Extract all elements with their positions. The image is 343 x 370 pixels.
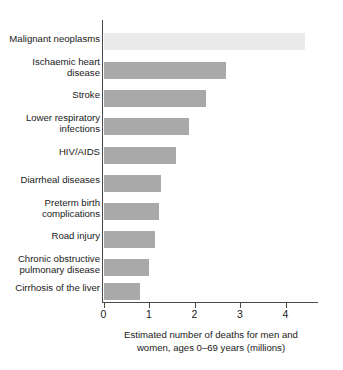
bar — [104, 90, 207, 107]
bar — [104, 33, 305, 50]
bar-category-label: Diarrheal diseases — [0, 174, 100, 185]
bar-category-label: Chronic obstructive pulmonary disease — [0, 253, 100, 276]
x-axis-caption: Estimated number of deaths for men and w… — [103, 329, 319, 354]
x-axis-caption-line1: Estimated number of deaths for men and — [103, 329, 319, 342]
bar — [104, 231, 156, 248]
x-axis-tick-label: 1 — [137, 308, 161, 321]
plot-area: Malignant neoplasmsIschaemic heart disea… — [0, 0, 343, 370]
bar-category-label: Road injury — [0, 230, 100, 241]
bar — [104, 203, 159, 220]
x-axis-tick-label: 0 — [92, 308, 116, 321]
bar-chart: Malignant neoplasmsIschaemic heart disea… — [0, 0, 343, 370]
x-axis-tick-label: 4 — [274, 308, 298, 321]
bar-category-label: Lower respiratory infections — [0, 112, 100, 135]
bar — [104, 259, 149, 276]
bar-category-label: HIV/AIDS — [0, 146, 100, 157]
x-axis-tick-label: 2 — [183, 308, 207, 321]
bar-category-label: Cirrhosis of the liver — [0, 282, 100, 293]
bar-category-label: Ischaemic heart disease — [0, 56, 100, 79]
x-axis-caption-line2: women, ages 0–69 years (millions) — [103, 342, 319, 355]
bar — [104, 118, 189, 135]
x-axis-tick-label: 3 — [228, 308, 252, 321]
bar — [104, 175, 162, 192]
bar-category-label: Malignant neoplasms — [0, 33, 100, 44]
bar-category-label: Stroke — [0, 89, 100, 100]
bar — [104, 62, 227, 79]
bar — [104, 147, 177, 164]
bar — [104, 283, 141, 300]
bar-category-label: Preterm birth complications — [0, 197, 100, 220]
